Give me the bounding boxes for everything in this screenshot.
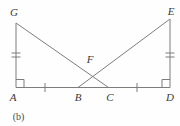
point-label-B: B [75, 91, 82, 103]
point-label-A: A [9, 91, 17, 103]
segment-GC [16, 23, 109, 88]
point-label-E: E [167, 5, 175, 17]
point-label-D: D [165, 91, 174, 103]
geometry-diagram-canvas: G E F A B C D (b) [0, 0, 180, 126]
right-angle-mark-A [16, 80, 24, 88]
figure-caption: (b) [13, 111, 25, 123]
point-label-F: F [86, 53, 94, 65]
point-label-G: G [10, 6, 18, 18]
right-angle-mark-D [162, 80, 170, 88]
point-label-C: C [106, 91, 114, 103]
geometry-figure: G E F A B C D (b) [0, 0, 180, 126]
